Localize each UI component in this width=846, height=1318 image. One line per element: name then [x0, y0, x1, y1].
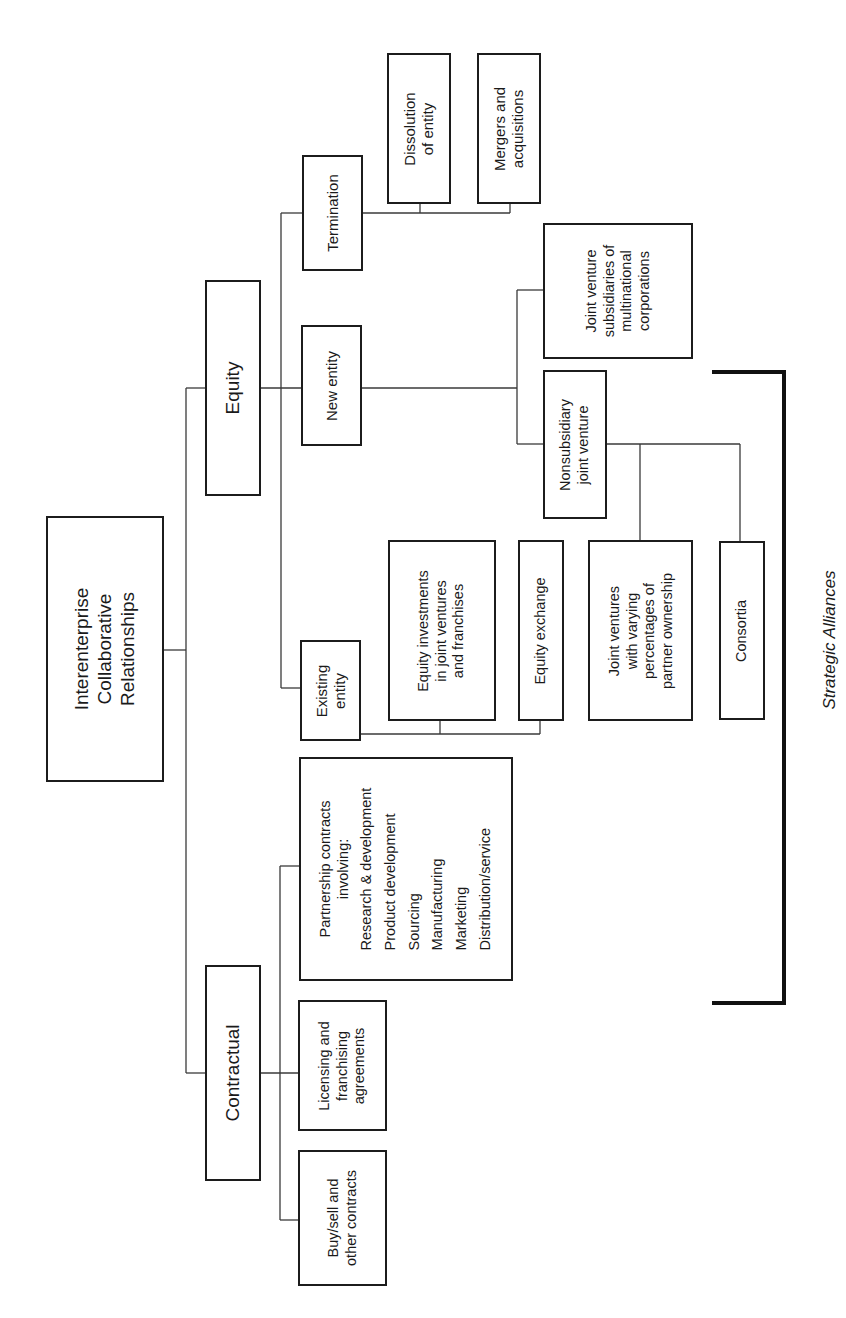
- dissolution-node: Dissolution of entity: [387, 53, 451, 204]
- partnership-item: Distribution/service: [477, 788, 495, 951]
- equity-investments-node: Equity investments in joint ventures and…: [388, 540, 496, 721]
- mergers-label: Mergers and acquisitions: [491, 86, 528, 170]
- equity-investments-label: Equity investments in joint ventures and…: [415, 570, 468, 692]
- equity-exchange-label: Equity exchange: [532, 577, 550, 684]
- existing-entity-label: Existing entity: [312, 664, 349, 717]
- partnership-contracts-label: Partnership contracts involving: Researc…: [317, 788, 495, 951]
- equity-exchange-node: Equity exchange: [518, 540, 564, 721]
- partnership-item: Marketing: [453, 788, 471, 951]
- nonsubsidiary-jv-label: Nonsubsidiary joint venture: [557, 399, 592, 491]
- jv-varying-ownership-node: Joint ventures with varying percentages …: [588, 540, 693, 721]
- strategic-alliances-label: Strategic Alliances: [820, 570, 840, 709]
- jv-varying-ownership-label: Joint ventures with varying percentages …: [605, 572, 676, 688]
- partnership-item: Research & development: [359, 788, 377, 951]
- termination-label: Termination: [323, 174, 341, 252]
- partnership-item: Sourcing: [406, 788, 424, 951]
- root-label: Interenterprise Collaborative Relationsh…: [70, 588, 140, 711]
- contractual-label: Contractual: [221, 1024, 244, 1121]
- existing-entity-node: Existing entity: [300, 640, 361, 741]
- termination-node: Termination: [302, 155, 363, 271]
- jv-subsidiaries-label: Joint venture subsidiaries of multinatio…: [583, 245, 654, 338]
- jv-subsidiaries-node: Joint venture subsidiaries of multinatio…: [543, 223, 693, 359]
- buysell-label: Buy/sell and other contracts: [325, 1170, 360, 1266]
- buysell-node: Buy/sell and other contracts: [298, 1150, 387, 1286]
- licensing-label: Licensing and franchising agreements: [316, 1021, 369, 1111]
- partnership-contracts-node: Partnership contracts involving: Researc…: [299, 757, 513, 981]
- org-chart-diagram: Interenterprise Collaborative Relationsh…: [0, 0, 846, 1318]
- licensing-node: Licensing and franchising agreements: [298, 1000, 387, 1131]
- partnership-item: Product development: [382, 788, 400, 951]
- mergers-node: Mergers and acquisitions: [477, 53, 541, 204]
- nonsubsidiary-jv-node: Nonsubsidiary joint venture: [543, 370, 607, 519]
- new-entity-node: New entity: [301, 325, 362, 446]
- dissolution-label: Dissolution of entity: [401, 92, 438, 165]
- equity-node: Equity: [205, 280, 261, 496]
- consortia-label: Consortia: [733, 599, 751, 661]
- consortia-node: Consortia: [719, 541, 765, 720]
- partnership-item: Manufacturing: [430, 788, 448, 951]
- root-node: Interenterprise Collaborative Relationsh…: [46, 516, 164, 782]
- new-entity-label: New entity: [322, 350, 340, 420]
- equity-label: Equity: [221, 362, 244, 415]
- contractual-node: Contractual: [205, 965, 261, 1181]
